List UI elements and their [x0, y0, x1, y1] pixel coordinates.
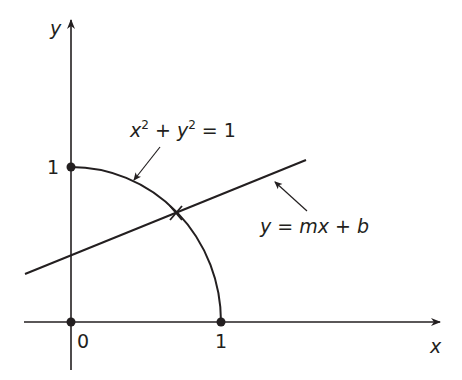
- circle-label-arrow: [134, 147, 160, 180]
- origin-point: [67, 318, 76, 327]
- line-equation-label: y = mx + b: [259, 215, 369, 237]
- diagram-canvas: y x 0 1 1 x2 + y2 = 1 y = mx + b: [0, 0, 462, 380]
- origin-label: 0: [77, 330, 89, 352]
- quarter-circle-curve: [71, 167, 221, 322]
- intersection-marker: [170, 206, 182, 220]
- x-intercept-point: [217, 318, 226, 327]
- y-axis-label: y: [49, 17, 62, 39]
- x-axis-label: x: [429, 335, 442, 357]
- circle-equation-label: x2 + y2 = 1: [129, 118, 236, 141]
- line-label-arrow: [275, 182, 307, 211]
- y-one-label: 1: [47, 156, 59, 178]
- x-one-label: 1: [215, 330, 227, 352]
- y-intercept-point: [67, 163, 76, 172]
